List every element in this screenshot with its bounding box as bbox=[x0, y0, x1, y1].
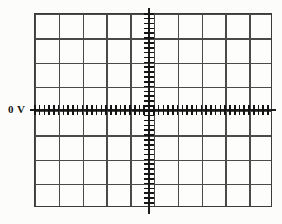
vertical-axis-tick-marks bbox=[144, 13, 154, 207]
oscilloscope-graticule-figure: 0 V bbox=[0, 0, 282, 224]
zero-volt-label: 0 V bbox=[8, 102, 34, 117]
